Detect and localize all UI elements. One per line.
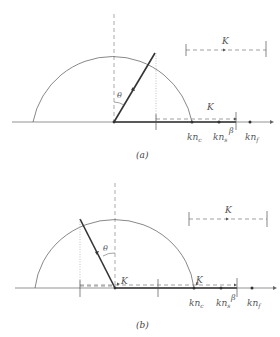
k-arrow-icon (234, 118, 237, 121)
theta-label: θ (103, 244, 108, 253)
origin-point (113, 121, 116, 124)
k-scale-label: K (224, 205, 233, 215)
semicircle (35, 220, 194, 288)
knf-label: knf (245, 132, 260, 144)
origin-point (114, 287, 117, 290)
k-axis-label: K (206, 102, 215, 112)
axis-arrow-icon (270, 120, 274, 124)
point-kns (218, 121, 221, 124)
panel-a: θ K knc kns β knf K (a) (12, 14, 274, 160)
semicircle (33, 57, 192, 122)
axis-arrow-icon (273, 286, 277, 290)
k-origin-label: K (120, 276, 129, 286)
point-knf (251, 287, 254, 290)
beta-label: β (230, 293, 236, 302)
panel-b: θ K K knc kns β knf K (b) (15, 183, 277, 330)
knc-label: knc (189, 298, 204, 309)
theta-arc (103, 253, 115, 256)
kns-label: kns (213, 132, 227, 143)
theta-arc (114, 102, 124, 105)
beta-label: β (228, 126, 234, 135)
kns-label: kns (216, 298, 230, 309)
knf-label: knf (247, 298, 262, 310)
point-knc (191, 121, 194, 124)
k-scale-label: K (221, 36, 230, 46)
k-axis-label: K (195, 275, 204, 285)
k-scale-arrow-icon (223, 49, 226, 52)
k-scale-arrow-icon (226, 218, 229, 221)
theta-label: θ (117, 91, 122, 100)
point-knf (249, 121, 252, 124)
knc-label: knc (187, 132, 202, 143)
wavevector-rod (114, 53, 155, 122)
point-kns (220, 287, 223, 290)
caption-a: (a) (136, 150, 149, 160)
k-arrow-icon (234, 284, 237, 287)
caption-b: (b) (136, 320, 149, 330)
figure-canvas: θ K knc kns β knf K (a) (0, 0, 280, 337)
point-knc (193, 287, 196, 290)
